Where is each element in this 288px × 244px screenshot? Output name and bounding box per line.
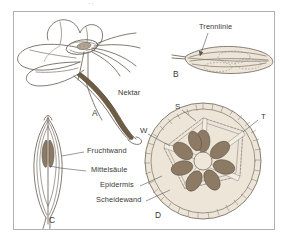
label-scheidewand: Scheidewand xyxy=(96,196,141,204)
scan-artifact-mark: ·· xyxy=(88,1,102,6)
tag-s: S xyxy=(175,103,180,111)
panel-caption-b: B xyxy=(173,70,179,79)
label-fruchtwand: Fruchtwand xyxy=(87,147,127,155)
panel-caption-a: A xyxy=(92,109,98,118)
panel-caption-d: D xyxy=(155,211,161,220)
label-trennlinie: Trennlinie xyxy=(199,23,232,31)
label-epidermis: Epidermis xyxy=(100,181,134,189)
tag-w: W xyxy=(140,127,147,135)
panel-caption-c: C xyxy=(49,216,55,225)
label-nektar: Nektar xyxy=(118,89,140,97)
label-mittelsaeule: Mittelsäule xyxy=(91,166,127,174)
tag-t: T xyxy=(261,113,266,121)
botanical-figure: ·· .s{fill:none;stroke:#6b6257;stroke-wi… xyxy=(0,0,288,244)
figure-frame xyxy=(13,11,275,230)
